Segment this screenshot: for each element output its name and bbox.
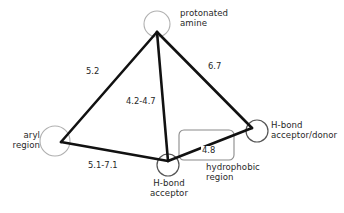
node-label-h-bond-acceptor-donor-line2: acceptor/donor xyxy=(271,130,337,140)
node-label-h-bond-acceptor-line1: H-bond xyxy=(153,178,184,188)
node-label-h-bond-acceptor: H-bond acceptor xyxy=(138,178,200,199)
pharmacophore-diagram: protonated amine aryl region H-bond acce… xyxy=(0,0,344,213)
edge-aryl-acceptor xyxy=(61,142,168,161)
region-label-hydrophobic-line2: region xyxy=(206,172,233,182)
edge-amine-aryl xyxy=(61,32,157,142)
circle-aryl-region xyxy=(40,126,70,156)
region-label-hydrophobic-line1: hydrophobic xyxy=(206,162,260,172)
node-label-h-bond-acceptor-donor: H-bond acceptor/donor xyxy=(271,120,343,141)
node-label-h-bond-acceptor-donor-line1: H-bond xyxy=(271,120,302,130)
distance-label-amine-acceptor: 4.2-4.7 xyxy=(126,97,156,107)
node-label-protonated-amine-line2: amine xyxy=(180,18,207,28)
edge-amine-acceptor xyxy=(157,32,168,161)
node-label-h-bond-acceptor-line2: acceptor xyxy=(150,188,188,198)
distance-label-amine-aryl: 5.2 xyxy=(86,67,99,77)
distance-label-amine-donor: 6.7 xyxy=(208,62,221,72)
node-label-aryl-region: aryl region xyxy=(2,130,40,151)
circle-h-bond-acceptor-donor xyxy=(246,120,268,142)
node-label-aryl-region-line1: aryl xyxy=(24,130,40,140)
region-label-hydrophobic: hydrophobic region xyxy=(206,162,282,183)
node-label-protonated-amine: protonated amine xyxy=(180,8,262,29)
node-label-protonated-amine-line1: protonated xyxy=(180,8,228,18)
distance-label-aryl-acceptor: 5.1-7.1 xyxy=(88,161,118,171)
node-label-aryl-region-line2: region xyxy=(13,140,40,150)
edge-amine-donor xyxy=(157,32,252,128)
distance-label-acceptor-donor: 4.8 xyxy=(201,146,216,156)
